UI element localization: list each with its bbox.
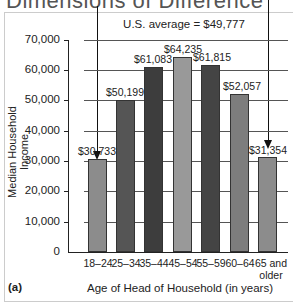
value-label: $31,354 (243, 144, 293, 156)
x-axis-title: Age of Head of Household (in years) (70, 282, 290, 294)
x-tick-label-line2: older (259, 269, 282, 281)
y-tick-label: 70,000 (2, 33, 60, 45)
value-label: $61,815 (187, 51, 237, 63)
x-tick-label: 25–34 (111, 257, 141, 269)
bar-18-24 (88, 159, 107, 252)
y-tick (64, 40, 69, 41)
y-tick (64, 100, 69, 101)
x-tick-label: 65 and older (253, 257, 289, 281)
bar-45-54 (173, 57, 192, 252)
panel-label: (a) (8, 281, 22, 293)
y-tick (64, 70, 69, 71)
x-tick-label: 45–54 (168, 257, 198, 269)
y-tick (64, 131, 69, 132)
x-tick-label: 55–59 (196, 257, 226, 269)
bar-60-64 (230, 94, 249, 252)
y-tick-label: 10,000 (2, 215, 60, 227)
x-tick-label: 18–24 (83, 257, 113, 269)
x-axis (68, 252, 288, 253)
y-tick (64, 161, 69, 162)
y-axis-title: Median Household Income (6, 92, 30, 212)
y-tick (64, 222, 69, 223)
value-label: $52,057 (217, 80, 267, 92)
gridline-70000 (84, 40, 288, 41)
y-tick (64, 191, 69, 192)
bar-55-59 (201, 65, 220, 252)
x-tick-label-line1: 65 and (255, 257, 287, 269)
bar-25-34 (116, 100, 135, 252)
value-label: $30,733 (72, 145, 122, 157)
bar-65-older (258, 157, 277, 252)
x-tick-label: 60–64 (225, 257, 255, 269)
value-label: $50,199 (100, 86, 150, 98)
us-average-annotation: U.S. average = $49,777 (100, 18, 268, 30)
y-tick-label: 0 (2, 245, 60, 257)
right-arrow-line (268, 0, 269, 143)
y-tick-label: 60,000 (2, 63, 60, 75)
x-tick-label: 35–44 (139, 257, 169, 269)
